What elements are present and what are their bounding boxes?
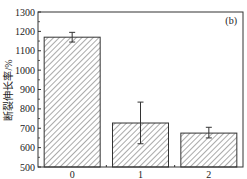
y-tick-label: 1000 — [15, 65, 35, 76]
y-tick-label: 1100 — [15, 45, 35, 56]
y-axis-ticks: 5006007008009001000110012001300 — [15, 7, 41, 173]
y-tick-label: 600 — [20, 142, 35, 153]
bar — [44, 37, 100, 167]
y-tick-label: 800 — [20, 103, 35, 114]
x-tick-label: 2 — [206, 169, 211, 179]
panel-label: (b) — [225, 15, 237, 27]
bars — [44, 32, 237, 167]
x-tick-label: 1 — [138, 169, 143, 179]
bar-chart: 5006007008009001000110012001300 012 (b) … — [0, 0, 247, 179]
y-tick-label: 700 — [20, 123, 35, 134]
y-tick-label: 1200 — [15, 26, 35, 37]
y-tick-label: 900 — [20, 84, 35, 95]
x-tick-label: 0 — [70, 169, 75, 179]
y-tick-label: 500 — [20, 162, 35, 173]
y-axis-label: 断裂伸长率/% — [2, 59, 14, 120]
y-tick-label: 1300 — [15, 7, 35, 18]
